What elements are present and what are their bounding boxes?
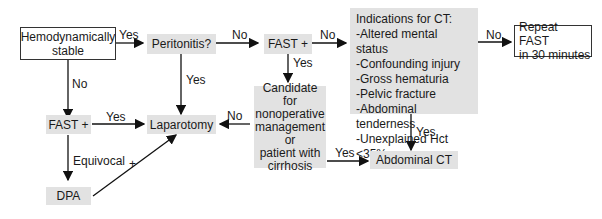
edge-label-yes: Yes bbox=[119, 28, 139, 42]
node-label: FAST + bbox=[268, 37, 308, 51]
node-label: stable bbox=[52, 44, 84, 58]
node-abdominal-ct: Abdominal CT bbox=[370, 151, 458, 169]
ct-indications-title: Indications for CT: bbox=[356, 12, 452, 27]
node-label: nonoperative bbox=[255, 108, 324, 121]
node-label: Hemodynamically bbox=[21, 30, 116, 44]
edge-label-no: No bbox=[232, 28, 247, 42]
node-repeat-fast: Repeat FAST in 30 minutes bbox=[514, 25, 592, 57]
node-hemodynamically-stable: Hemodynamically stable bbox=[20, 27, 116, 60]
node-candidate-nonoperative: Candidate for nonoperative management or… bbox=[254, 86, 326, 168]
node-label: DPA bbox=[57, 189, 81, 203]
node-label: in 30 minutes bbox=[519, 48, 590, 62]
ct-indication-item: -Gross hematuria bbox=[356, 72, 449, 87]
node-label: patient with bbox=[260, 147, 321, 160]
node-dpa: DPA bbox=[46, 187, 91, 205]
node-peritonitis: Peritonitis? bbox=[147, 34, 216, 54]
edge-label-yes: Yes bbox=[335, 146, 355, 160]
edge-label-yes: Yes bbox=[293, 56, 313, 70]
ct-indication-item: -Pelvic fracture bbox=[356, 87, 436, 102]
node-label: management bbox=[255, 121, 325, 134]
node-ct-indications: Indications for CT: -Altered mental stat… bbox=[350, 8, 478, 114]
node-label: Candidate for bbox=[254, 82, 326, 108]
node-label: cirrhosis bbox=[268, 160, 313, 173]
ct-indication-item: -Confounding injury bbox=[356, 57, 460, 72]
edge-label-no: No bbox=[72, 77, 87, 91]
edge-label-yes: Yes bbox=[186, 73, 206, 87]
node-label: or bbox=[285, 134, 296, 147]
edge-label-no: No bbox=[320, 28, 335, 42]
edge-label-yes: Yes bbox=[416, 125, 436, 139]
edge-label-no: No bbox=[486, 28, 501, 42]
ct-indication-item: -Abdominal tenderness bbox=[356, 102, 472, 132]
node-laparotomy: Laparotomy bbox=[147, 115, 216, 134]
edge-label-plus: + bbox=[129, 157, 136, 171]
node-label: Laparotomy bbox=[150, 118, 213, 132]
edge-label-no: No bbox=[227, 109, 242, 123]
edge-label-yes: Yes bbox=[106, 110, 126, 124]
node-label: Peritonitis? bbox=[152, 37, 211, 51]
node-fast-top: FAST + bbox=[264, 34, 312, 54]
edge-label-equivocal: Equivocal bbox=[73, 154, 125, 168]
node-fast-left: FAST + bbox=[46, 115, 91, 134]
node-label: Repeat FAST bbox=[519, 20, 591, 48]
ct-indication-item: -Altered mental status bbox=[356, 27, 472, 57]
node-label: Abdominal CT bbox=[376, 153, 452, 167]
node-label: FAST + bbox=[48, 118, 88, 132]
